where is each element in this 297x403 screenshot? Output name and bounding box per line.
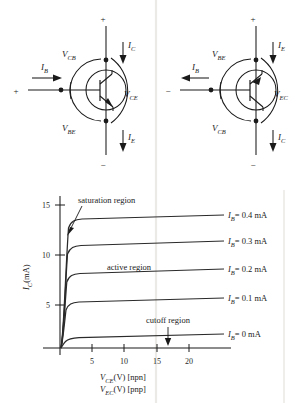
y-tick-label-5: 5 (46, 301, 50, 310)
npn-ie-label: IE (127, 132, 135, 144)
npn-ib-label: IB (40, 62, 48, 74)
npn-node-collector (104, 58, 109, 63)
annotation-active-region: active region (107, 262, 152, 272)
npn-vce-label: VCE (124, 89, 138, 101)
curve-ib-0.1 (61, 298, 224, 348)
pnp-ic-label: IC (277, 132, 286, 144)
npn-vcb-label: VCB (62, 49, 76, 61)
chart-y-axis-label: IC(mA) (21, 264, 33, 291)
npn-top-sign: + (100, 14, 105, 24)
pnp-top-sign: + (250, 14, 255, 24)
saturation-arrow-line (70, 206, 82, 230)
pnp-ie-arrowhead (270, 55, 277, 64)
curve-ib-0 (61, 334, 224, 348)
pnp-vec-label: VEC (274, 89, 288, 101)
legend-item-ib-0.4: IB= 0.4 mA (227, 210, 268, 222)
chart-legend: IB= 0.4 mA IB= 0.3 mA IB= 0.2 mA IB= 0.1… (227, 210, 268, 341)
curve-ib-0.4 (61, 215, 224, 348)
chart-x-axis-label-pnp: VEC(V) [pnp] (100, 384, 146, 396)
x-tick-label-15: 15 (153, 357, 161, 366)
npn-ib-arrowhead (53, 75, 62, 82)
annotation-cutoff-region: cutoff region (146, 315, 191, 325)
pnp-vbe-arc (220, 59, 251, 99)
pnp-bottom-sign: − (250, 160, 255, 170)
x-tick-label-20: 20 (185, 357, 193, 366)
curve-ib-0.3 (61, 241, 224, 348)
circuit-pnp (180, 26, 278, 155)
pnp-ie-label: IE (277, 40, 285, 52)
npn-vcb-arc (70, 59, 101, 99)
pnp-node-collector (254, 119, 259, 124)
legend-item-ib-0: IB= 0 mA (227, 329, 262, 341)
pnp-ib-arrowhead (181, 75, 190, 82)
pnp-vcb-label: VCB (212, 123, 226, 135)
annotation-saturation-region: saturation region (78, 195, 136, 205)
iv-characteristic-chart: 15 10 5 5 10 15 20 IC(mA) VCE(V) [npn] V… (21, 195, 268, 396)
chart-curves (61, 215, 224, 348)
npn-ie-arrowhead (120, 143, 127, 152)
npn-vbe-label: VBE (62, 123, 75, 135)
pnp-left-sign: − (165, 86, 170, 96)
circuit-npn-labels: + − + IB IC IE VCB VBE VCE (13, 14, 137, 170)
npn-ic-arrowhead (120, 55, 127, 64)
legend-item-ib-0.3: IB= 0.3 mA (227, 236, 268, 248)
npn-bottom-sign: − (100, 160, 105, 170)
pnp-node-base (209, 88, 214, 93)
y-tick-label-10: 10 (42, 251, 50, 260)
npn-ic-label: IC (127, 40, 136, 52)
circuit-pnp-labels: + − − IB IE IC VBE VCB VEC (165, 14, 288, 170)
cutoff-arrow (165, 327, 171, 346)
chart-x-axis-label-npn: VCE(V) [npn] (100, 372, 146, 384)
x-tick-label-10: 10 (120, 357, 128, 366)
cutoff-arrowhead (165, 338, 171, 346)
npn-node-base (59, 88, 64, 93)
circuit-npn (28, 26, 128, 155)
npn-node-emitter (104, 119, 109, 124)
pnp-ic-arrowhead (270, 143, 277, 152)
x-tick-label-5: 5 (90, 357, 94, 366)
pnp-vbe-label: VBE (212, 49, 225, 61)
npn-left-sign: + (13, 86, 18, 96)
transistor-figure: + − + IB IC IE VCB VBE VCE (0, 0, 297, 403)
legend-item-ib-0.1: IB= 0.1 mA (227, 293, 268, 305)
pnp-ib-label: IB (191, 62, 199, 74)
saturation-arrow (67, 206, 82, 236)
pnp-node-emitter (254, 58, 259, 63)
legend-item-ib-0.2: IB= 0.2 mA (227, 264, 268, 276)
figure-root: + − + IB IC IE VCB VBE VCE (0, 0, 297, 403)
y-tick-label-15: 15 (42, 201, 50, 210)
